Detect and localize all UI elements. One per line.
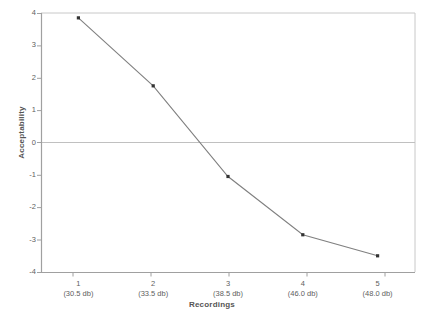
- figure-caption-partial: [0, 316, 424, 323]
- x-tick-label: 5(48.0 db): [338, 279, 418, 299]
- x-axis-title: Recordings: [0, 300, 424, 309]
- x-tick-db-value: (38.5 db): [188, 289, 268, 299]
- x-tick-index: 1: [38, 279, 118, 289]
- x-tick-db-value: (30.5 db): [38, 289, 118, 299]
- x-tick-index: 2: [113, 279, 193, 289]
- x-tick-index: 3: [188, 279, 268, 289]
- x-tick-index: 4: [263, 279, 343, 289]
- x-tick-label: 4(46.0 db): [263, 279, 343, 299]
- x-tick-db-value: (46.0 db): [263, 289, 343, 299]
- x-axis-tick-labels: 1(30.5 db)2(33.5 db)3(38.5 db)4(46.0 db)…: [0, 0, 424, 323]
- x-tick-label: 1(30.5 db): [38, 279, 118, 299]
- x-tick-label: 2(33.5 db): [113, 279, 193, 299]
- x-tick-index: 5: [338, 279, 418, 289]
- figure-container: Acceptability 43210-1-2-3-4 1(30.5 db)2(…: [0, 0, 424, 323]
- x-tick-label: 3(38.5 db): [188, 279, 268, 299]
- x-tick-db-value: (48.0 db): [338, 289, 418, 299]
- x-tick-db-value: (33.5 db): [113, 289, 193, 299]
